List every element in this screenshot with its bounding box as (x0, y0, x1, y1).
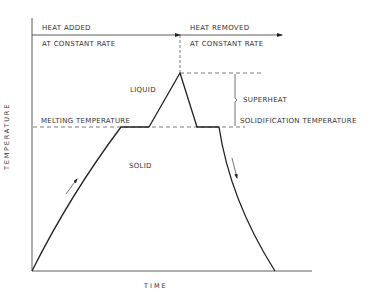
heat-added-rate-label: AT CONSTANT RATE (42, 40, 115, 48)
heating-direction-arrow (66, 179, 77, 194)
x-axis-label: TIME (144, 282, 168, 290)
solidification-temperature-label: SOLIDIFICATION TEMPERATURE (240, 117, 357, 125)
liquid-region-label: LIQUID (130, 86, 156, 94)
superheat-bracket (235, 74, 237, 126)
solid-region-label: SOLID (129, 162, 152, 170)
heat-added-label: HEAT ADDED (42, 24, 91, 32)
heat-removed-label: HEAT REMOVED (190, 24, 249, 32)
superheat-label: SUPERHEAT (243, 96, 287, 104)
melting-temperature-label: MELTING TEMPERATURE (41, 117, 130, 125)
heat-removed-rate-label: AT CONSTANT RATE (190, 40, 263, 48)
temperature-curve (32, 73, 275, 271)
y-axis-label: TEMPERATURE (3, 103, 11, 170)
cooling-direction-arrow (232, 158, 237, 178)
